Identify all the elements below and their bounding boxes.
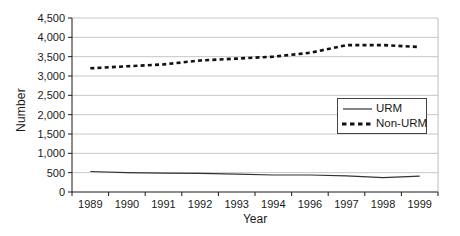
x-tick-label: 1991 <box>151 198 175 210</box>
line-chart-figure: 05001,0001,5002,0002,5003,0003,5004,0004… <box>0 0 460 236</box>
y-axis-title: Number <box>14 88 28 132</box>
solid-line-swatch <box>342 104 374 114</box>
y-tick-label: 3,000 <box>37 70 65 82</box>
legend: URM Non-URM <box>337 98 427 134</box>
x-tick-label: 1994 <box>261 198 285 210</box>
y-tick-label: 4,500 <box>37 12 65 24</box>
dashed-line-swatch <box>342 119 374 129</box>
y-tick-label: 500 <box>47 167 65 179</box>
legend-label-urm: URM <box>376 103 402 115</box>
x-tick-label: 1993 <box>224 198 248 210</box>
y-tick-label: 0 <box>59 186 65 198</box>
y-tick-label: 4,000 <box>37 31 65 43</box>
x-axis-title: Year <box>243 212 267 226</box>
x-tick-label: 1992 <box>188 198 212 210</box>
y-tick-label: 1,000 <box>37 147 65 159</box>
x-tick-label: 1999 <box>407 198 431 210</box>
y-tick-label: 2,500 <box>37 89 65 101</box>
legend-item-urm: URM <box>342 101 423 116</box>
legend-item-non-urm: Non-URM <box>342 116 423 131</box>
x-tick-label: 1996 <box>298 198 322 210</box>
x-tick-label: 1989 <box>78 198 102 210</box>
x-tick-label: 1998 <box>371 198 395 210</box>
x-tick-label: 1990 <box>115 198 139 210</box>
y-tick-label: 2,000 <box>37 109 65 121</box>
x-tick-label: 1997 <box>334 198 358 210</box>
y-tick-label: 3,500 <box>37 51 65 63</box>
legend-label-non-urm: Non-URM <box>376 118 427 130</box>
y-tick-label: 1,500 <box>37 128 65 140</box>
